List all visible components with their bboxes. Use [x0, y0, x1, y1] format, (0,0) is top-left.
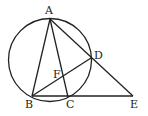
- segment-ae: [50, 19, 133, 96]
- label-a: A: [44, 4, 54, 17]
- label-f: F: [53, 68, 61, 81]
- segment-ab: [32, 19, 50, 96]
- label-c: C: [66, 98, 74, 111]
- label-d: D: [94, 49, 103, 62]
- segment-bd: [32, 58, 91, 96]
- circle: [9, 19, 92, 102]
- segment-ac: [50, 19, 68, 97]
- label-e: E: [130, 98, 138, 111]
- label-b: B: [25, 98, 33, 111]
- geometry-diagram: A B C D E F: [0, 0, 148, 116]
